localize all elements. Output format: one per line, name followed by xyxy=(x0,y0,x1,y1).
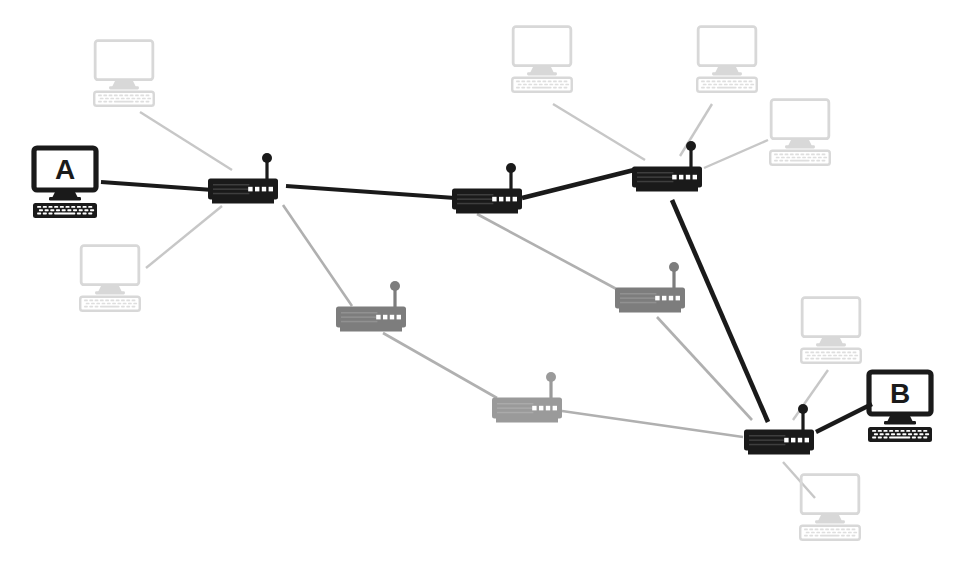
network-link xyxy=(783,462,815,498)
network-link xyxy=(562,411,743,437)
terminal-layer: AB xyxy=(33,27,932,540)
keyboard-keys xyxy=(872,430,929,438)
router-icon[interactable] xyxy=(744,404,814,455)
network-link xyxy=(383,333,497,398)
monitor-stand xyxy=(52,190,78,198)
router-antenna-knob xyxy=(546,372,556,382)
router-antenna-knob xyxy=(686,141,696,151)
router-icon[interactable] xyxy=(492,372,562,423)
router-icon[interactable] xyxy=(452,163,522,214)
monitor-screen xyxy=(513,27,571,66)
router-base xyxy=(496,418,558,423)
router-led xyxy=(669,296,673,301)
router-base xyxy=(619,308,681,313)
computer-terminal-a[interactable]: A xyxy=(33,148,97,218)
computer-terminal[interactable] xyxy=(94,41,154,106)
monitor-stand-base xyxy=(95,291,125,294)
network-diagram: AB xyxy=(0,0,971,569)
network-link xyxy=(283,205,352,306)
monitor-stand xyxy=(98,285,122,292)
keyboard-keys xyxy=(804,529,857,537)
monitor-stand-base xyxy=(49,197,81,200)
router-base xyxy=(212,199,274,204)
router-led xyxy=(662,296,666,301)
router-led xyxy=(539,406,543,411)
computer-terminal[interactable] xyxy=(80,246,140,311)
monitor-stand-base xyxy=(109,86,139,89)
keyboard-keys xyxy=(516,81,569,89)
router-led xyxy=(499,197,503,202)
keyboard-keys xyxy=(805,352,858,360)
computer-terminal[interactable] xyxy=(800,475,860,540)
monitor-stand-base xyxy=(815,520,845,523)
router-led xyxy=(255,187,259,192)
network-link xyxy=(146,206,222,268)
router-led xyxy=(397,315,401,320)
router-icon[interactable] xyxy=(336,281,406,332)
router-antenna-knob xyxy=(506,163,516,173)
router-base xyxy=(456,209,518,214)
keyboard-keys xyxy=(98,95,151,103)
network-link xyxy=(704,140,768,168)
router-led xyxy=(553,406,557,411)
router-base xyxy=(748,450,810,455)
monitor-stand xyxy=(788,139,812,146)
computer-terminal[interactable] xyxy=(801,298,861,363)
router-led xyxy=(676,296,680,301)
computer-terminal[interactable] xyxy=(512,27,572,92)
monitor-stand-base xyxy=(816,343,846,346)
monitor-stand xyxy=(818,514,842,521)
network-link xyxy=(793,370,828,420)
network-link xyxy=(522,170,634,198)
router-antenna-knob xyxy=(390,281,400,291)
monitor-screen xyxy=(801,475,859,514)
monitor-stand xyxy=(819,337,843,344)
monitor-stand-base xyxy=(527,72,557,75)
network-link xyxy=(140,112,232,170)
monitor-stand xyxy=(715,66,739,73)
router-led xyxy=(693,175,697,180)
terminal-label: A xyxy=(55,154,75,185)
monitor-screen xyxy=(81,246,139,285)
monitor-stand xyxy=(887,414,913,422)
monitor-screen xyxy=(95,41,153,80)
router-led xyxy=(262,187,266,192)
router-icon[interactable] xyxy=(615,262,685,313)
terminal-label: B xyxy=(890,378,910,409)
router-led xyxy=(679,175,683,180)
router-led xyxy=(513,197,517,202)
keyboard-keys xyxy=(84,300,137,308)
network-link xyxy=(553,104,645,160)
monitor-screen xyxy=(698,27,756,66)
router-led xyxy=(390,315,394,320)
router-icon[interactable] xyxy=(632,141,702,192)
router-base xyxy=(636,187,698,192)
router-led xyxy=(791,438,795,443)
router-led xyxy=(383,315,387,320)
network-link xyxy=(657,317,752,420)
router-base xyxy=(340,327,402,332)
computer-terminal[interactable] xyxy=(697,27,757,92)
monitor-screen xyxy=(771,100,829,139)
monitor-screen xyxy=(802,298,860,337)
monitor-stand xyxy=(112,80,136,87)
computer-terminal-b[interactable]: B xyxy=(868,372,932,442)
router-led xyxy=(506,197,510,202)
monitor-stand-base xyxy=(785,145,815,148)
network-link xyxy=(477,214,622,292)
network-diagram-canvas: AB xyxy=(0,0,971,569)
computer-terminal[interactable] xyxy=(770,100,830,165)
monitor-stand-base xyxy=(712,72,742,75)
router-led xyxy=(805,438,809,443)
keyboard-keys xyxy=(37,206,94,214)
router-led xyxy=(546,406,550,411)
router-antenna-knob xyxy=(669,262,679,272)
router-led xyxy=(798,438,802,443)
keyboard-keys xyxy=(701,81,754,89)
network-link xyxy=(680,104,712,156)
monitor-stand-base xyxy=(884,421,916,424)
monitor-stand xyxy=(530,66,554,73)
network-link xyxy=(672,200,768,422)
router-led xyxy=(686,175,690,180)
router-led xyxy=(269,187,273,192)
